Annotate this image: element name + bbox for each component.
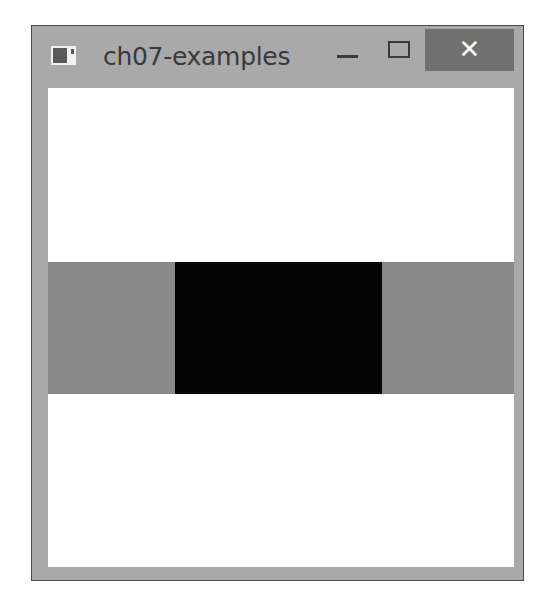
minimize-icon bbox=[337, 55, 358, 58]
gray-band bbox=[48, 262, 514, 394]
title-bar[interactable]: ch07-examples ✕ bbox=[32, 26, 523, 88]
minimize-button[interactable] bbox=[320, 29, 370, 71]
app-window-icon[interactable] bbox=[51, 46, 76, 65]
black-center-rect bbox=[175, 262, 382, 394]
client-area bbox=[48, 88, 514, 567]
app-icon-dark-part bbox=[53, 48, 67, 63]
maximize-icon bbox=[388, 41, 410, 58]
app-window: ch07-examples ✕ bbox=[31, 25, 524, 581]
window-title: ch07-examples bbox=[103, 42, 290, 71]
maximize-button[interactable] bbox=[372, 29, 424, 71]
app-icon-notch bbox=[71, 49, 74, 54]
close-icon: ✕ bbox=[425, 31, 514, 67]
close-button[interactable]: ✕ bbox=[425, 29, 514, 71]
